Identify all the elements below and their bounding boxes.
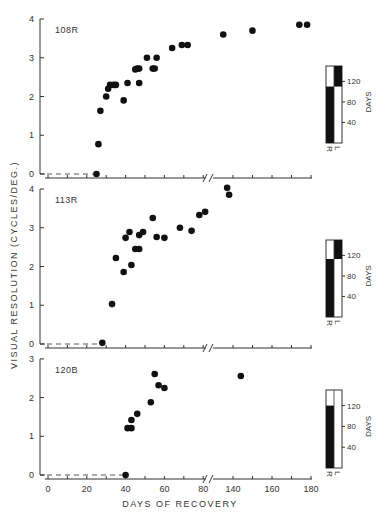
bar-tick-label: 80 bbox=[347, 422, 356, 431]
data-point bbox=[155, 382, 162, 389]
bar-R-black bbox=[326, 259, 334, 317]
data-point bbox=[113, 255, 120, 262]
bar-tick-label: 80 bbox=[347, 272, 356, 281]
panel-title: 113R bbox=[55, 195, 78, 205]
bar-tick-label: 40 bbox=[347, 292, 356, 301]
data-point bbox=[136, 65, 143, 72]
bar-tick-label: 120 bbox=[347, 402, 361, 411]
data-point bbox=[161, 235, 168, 242]
occlusion-bar: 4080120RLDAYS bbox=[325, 66, 373, 152]
bar-L-black bbox=[334, 66, 342, 87]
y-tick-label: 1 bbox=[29, 300, 34, 310]
data-point bbox=[128, 417, 135, 424]
data-point bbox=[113, 82, 120, 89]
bar-days-label: DAYS bbox=[364, 265, 373, 286]
y-tick-label: 3 bbox=[29, 53, 34, 63]
panel-108R: 01234108R4080120RLDAYS bbox=[29, 14, 373, 182]
data-point bbox=[136, 80, 143, 87]
data-point bbox=[151, 65, 158, 72]
bar-L-black bbox=[334, 240, 342, 259]
data-point bbox=[124, 80, 131, 87]
data-point bbox=[120, 269, 127, 276]
occlusion-bar: 4080120RLDAYS bbox=[325, 240, 373, 326]
data-point bbox=[177, 224, 184, 231]
panel-113R: 01234113R4080120RLDAYS bbox=[29, 184, 373, 352]
data-point bbox=[148, 399, 155, 406]
data-point bbox=[122, 472, 129, 479]
x-axis-title: DAYS OF RECOVERY bbox=[122, 499, 238, 509]
data-point bbox=[151, 371, 158, 378]
bar-L-label: L bbox=[333, 320, 342, 325]
bar-R-label: R bbox=[325, 146, 334, 152]
y-tick-label: 3 bbox=[29, 354, 34, 364]
panel-title: 120B bbox=[55, 365, 78, 375]
y-tick-label: 2 bbox=[29, 92, 34, 102]
panel-120B: 0123120B4080120RLDAYS bbox=[29, 354, 373, 483]
data-point bbox=[249, 27, 256, 34]
x-tick-label: 140 bbox=[225, 484, 240, 494]
y-tick-label: 2 bbox=[29, 262, 34, 272]
data-point bbox=[120, 97, 127, 104]
y-tick-label: 4 bbox=[29, 14, 34, 24]
data-point bbox=[161, 385, 168, 392]
bar-tick-label: 40 bbox=[347, 118, 356, 127]
x-tick-label: 20 bbox=[82, 484, 92, 494]
data-point bbox=[188, 228, 195, 235]
data-point bbox=[109, 301, 116, 308]
panels: 01234108R4080120RLDAYS01234113R4080120RL… bbox=[29, 14, 373, 494]
y-tick-label: 3 bbox=[29, 223, 34, 233]
figure: 01234108R4080120RLDAYS01234113R4080120RL… bbox=[0, 0, 385, 518]
y-tick-label: 0 bbox=[29, 339, 34, 349]
y-tick-label: 2 bbox=[29, 393, 34, 403]
data-point bbox=[144, 54, 151, 61]
data-point bbox=[153, 54, 160, 61]
data-point bbox=[122, 235, 129, 242]
data-point bbox=[202, 209, 209, 216]
y-tick-label: 1 bbox=[29, 431, 34, 441]
y-tick-label: 0 bbox=[29, 169, 34, 179]
bar-tick-label: 40 bbox=[347, 443, 356, 452]
data-point bbox=[224, 185, 231, 192]
y-tick-label: 1 bbox=[29, 130, 34, 140]
data-point bbox=[220, 31, 227, 38]
bar-tick-label: 120 bbox=[347, 251, 361, 260]
y-axis-title: VISUAL RESOLUTION (CYCLES/DEG.) bbox=[9, 161, 19, 369]
bar-R-black bbox=[326, 87, 334, 143]
x-tick-label: 0 bbox=[45, 484, 50, 494]
data-point bbox=[97, 108, 104, 115]
data-point bbox=[128, 425, 135, 432]
data-point bbox=[226, 192, 233, 199]
data-point bbox=[238, 373, 245, 380]
x-tick-label: 160 bbox=[264, 484, 279, 494]
data-point bbox=[103, 93, 110, 100]
data-point bbox=[304, 22, 311, 29]
x-tick-label: 180 bbox=[303, 484, 318, 494]
bar-days-label: DAYS bbox=[364, 91, 373, 112]
data-point bbox=[196, 212, 203, 219]
data-point bbox=[153, 234, 160, 241]
data-point bbox=[136, 246, 143, 253]
x-tick-label: 40 bbox=[121, 484, 131, 494]
data-point bbox=[140, 229, 147, 236]
data-point bbox=[99, 340, 106, 347]
bar-tick-label: 80 bbox=[347, 98, 356, 107]
data-point bbox=[126, 229, 133, 236]
panel-title: 108R bbox=[55, 25, 79, 35]
bar-tick-label: 120 bbox=[347, 77, 361, 86]
data-point bbox=[134, 411, 141, 418]
bar-R-label: R bbox=[325, 320, 334, 326]
y-tick-label: 0 bbox=[29, 470, 34, 480]
data-point bbox=[179, 42, 186, 49]
x-tick-labels: 020406080140160180 bbox=[45, 484, 318, 494]
data-point bbox=[149, 215, 156, 222]
bar-L-label: L bbox=[333, 471, 342, 476]
bar-days-label: DAYS bbox=[364, 416, 373, 437]
data-point bbox=[128, 262, 135, 269]
data-point bbox=[184, 42, 191, 49]
data-point bbox=[169, 45, 176, 52]
data-point bbox=[296, 22, 303, 29]
bar-R-black bbox=[326, 406, 334, 468]
data-point bbox=[93, 171, 100, 178]
occlusion-bar: 4080120RLDAYS bbox=[325, 390, 373, 477]
x-tick-label: 60 bbox=[159, 484, 169, 494]
